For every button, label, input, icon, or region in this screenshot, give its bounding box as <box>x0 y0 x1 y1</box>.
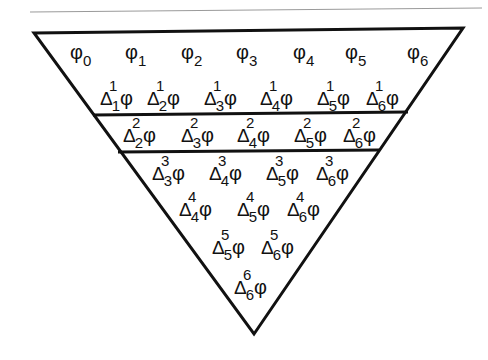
difference-order1-index4: Δ14φ <box>260 88 293 108</box>
difference-order1-index6: Δ16φ <box>366 88 399 108</box>
difference-order4-index4: Δ44φ <box>179 199 212 219</box>
phi-value-6: φ6 <box>407 42 428 62</box>
difference-order1-index5: Δ15φ <box>317 88 350 108</box>
difference-order2-index3: Δ23φ <box>181 125 214 145</box>
difference-order1-index3: Δ13φ <box>204 88 237 108</box>
difference-order2-index5: Δ25φ <box>294 125 327 145</box>
difference-order3-index6: Δ36φ <box>316 163 349 183</box>
difference-order2-index6: Δ26φ <box>343 125 376 145</box>
difference-order5-index5: Δ55φ <box>212 237 245 257</box>
difference-order2-index2: Δ22φ <box>123 125 156 145</box>
difference-order6-index6: Δ66φ <box>234 277 267 297</box>
difference-order4-index5: Δ45φ <box>237 199 270 219</box>
difference-order1-index2: Δ12φ <box>147 88 180 108</box>
difference-order2-index4: Δ24φ <box>237 125 270 145</box>
phi-value-2: φ2 <box>181 42 202 62</box>
difference-order1-index1: Δ11φ <box>100 88 133 108</box>
top-rule <box>30 8 482 12</box>
difference-order3-index4: Δ34φ <box>209 163 242 183</box>
phi-value-3: φ3 <box>236 42 257 62</box>
difference-order3-index5: Δ35φ <box>266 163 299 183</box>
difference-order5-index6: Δ56φ <box>261 237 294 257</box>
phi-value-1: φ1 <box>125 42 146 62</box>
difference-order4-index6: Δ46φ <box>287 199 320 219</box>
phi-value-5: φ5 <box>345 42 366 62</box>
difference-order3-index3: Δ33φ <box>152 163 185 183</box>
phi-value-4: φ4 <box>293 42 314 62</box>
phi-value-0: φ0 <box>70 42 91 62</box>
